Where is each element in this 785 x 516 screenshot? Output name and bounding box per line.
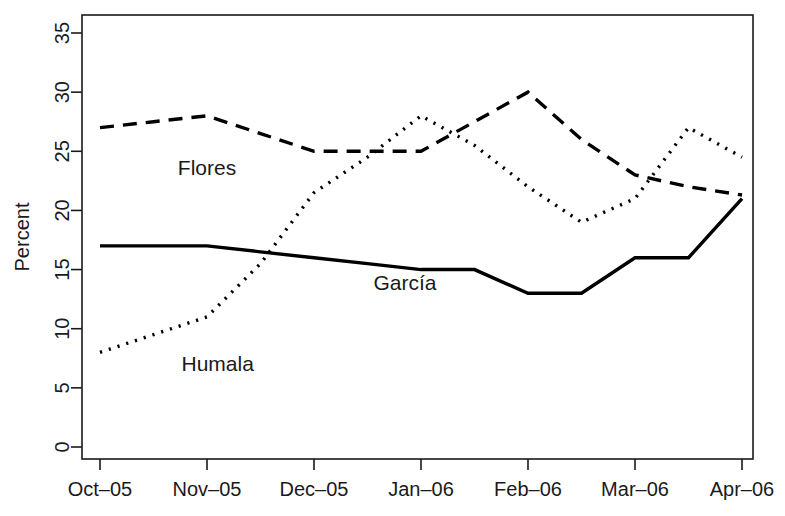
y-axis-label-text: Percent bbox=[11, 202, 33, 271]
y-tick-label-3: 15 bbox=[51, 258, 73, 280]
series-label-flores: Flores bbox=[178, 156, 236, 179]
x-tick-label-6: Apr–06 bbox=[710, 478, 775, 500]
chart-figure: Oct–05Nov–05Dec–05Jan–06Feb–06Mar–06Apr–… bbox=[0, 0, 785, 516]
y-tick-label-5: 25 bbox=[51, 140, 73, 162]
y-axis-tick-labels: 05101520253035 bbox=[51, 22, 73, 453]
tick-marks bbox=[71, 33, 742, 470]
y-tick-label-2: 10 bbox=[51, 318, 73, 340]
series-label-humala: Humala bbox=[182, 352, 255, 375]
plot-border bbox=[82, 15, 753, 459]
x-tick-label-0: Oct–05 bbox=[68, 478, 132, 500]
y-tick-label-4: 20 bbox=[51, 199, 73, 221]
y-tick-label-0: 0 bbox=[51, 441, 73, 452]
series-line-flores bbox=[100, 92, 742, 195]
axes bbox=[82, 15, 753, 459]
x-axis-tick-labels: Oct–05Nov–05Dec–05Jan–06Feb–06Mar–06Apr–… bbox=[68, 478, 774, 500]
x-tick-label-1: Nov–05 bbox=[173, 478, 242, 500]
data-series bbox=[100, 92, 742, 352]
y-tick-label-6: 30 bbox=[51, 81, 73, 103]
x-tick-label-5: Mar–06 bbox=[601, 478, 669, 500]
series-label-garca: García bbox=[373, 271, 436, 294]
y-tick-label-1: 5 bbox=[51, 382, 73, 393]
y-tick-label-7: 35 bbox=[51, 22, 73, 44]
y-axis-title: Percent bbox=[11, 202, 33, 271]
x-tick-label-4: Feb–06 bbox=[494, 478, 562, 500]
line-chart: Oct–05Nov–05Dec–05Jan–06Feb–06Mar–06Apr–… bbox=[0, 0, 785, 516]
x-tick-label-2: Dec–05 bbox=[280, 478, 349, 500]
x-tick-label-3: Jan–06 bbox=[388, 478, 454, 500]
